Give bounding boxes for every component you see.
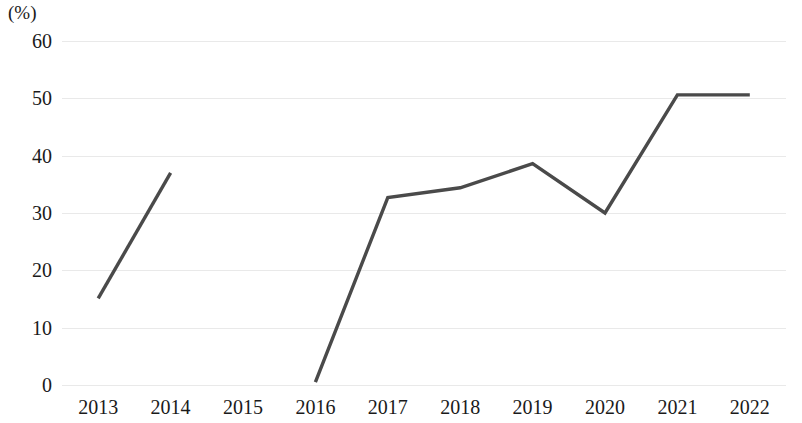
x-tick-label-2015: 2015 xyxy=(203,394,283,420)
x-tick-label-2017: 2017 xyxy=(348,394,428,420)
x-tick-label-2016: 2016 xyxy=(275,394,355,420)
y-tick-label-40: 40 xyxy=(8,146,52,166)
series-segment-0-0 xyxy=(98,173,170,299)
y-axis-tick-labels: 6050403020100 xyxy=(0,41,52,385)
y-tick-label-60: 60 xyxy=(8,31,52,51)
y-axis-unit-label: (%) xyxy=(8,2,36,24)
x-tick-label-2018: 2018 xyxy=(420,394,500,420)
data-series-line xyxy=(62,41,786,385)
x-tick-label-2019: 2019 xyxy=(493,394,573,420)
y-tick-label-0: 0 xyxy=(8,375,52,395)
x-tick-label-2013: 2013 xyxy=(58,394,138,420)
x-tick-label-2014: 2014 xyxy=(131,394,211,420)
plot-area xyxy=(62,41,786,385)
y-tick-label-20: 20 xyxy=(8,260,52,280)
gridline-0 xyxy=(62,385,786,386)
x-axis-tick-labels: 2013201420152016201720182019202020212022 xyxy=(62,394,786,422)
y-tick-label-50: 50 xyxy=(8,88,52,108)
y-tick-label-30: 30 xyxy=(8,203,52,223)
x-tick-label-2022: 2022 xyxy=(710,394,790,420)
x-tick-label-2020: 2020 xyxy=(565,394,645,420)
y-tick-label-10: 10 xyxy=(8,318,52,338)
series-segment-0-1 xyxy=(315,95,749,382)
x-tick-label-2021: 2021 xyxy=(637,394,717,420)
line-chart: (%) 6050403020100 2013201420152016201720… xyxy=(0,0,802,423)
